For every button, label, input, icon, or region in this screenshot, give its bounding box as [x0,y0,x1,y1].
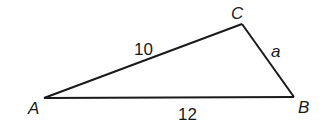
vertex-label-a: A [27,99,39,118]
side-ac [44,24,242,98]
side-label-ab: 12 [178,105,197,124]
vertex-label-c: C [231,4,244,23]
side-label-ac: 10 [134,40,153,59]
triangle-diagram: A C B 10 12 a [0,0,322,127]
vertex-label-b: B [298,98,309,117]
side-cb [242,24,294,97]
side-ab [44,97,294,98]
side-label-bc: a [271,42,280,61]
